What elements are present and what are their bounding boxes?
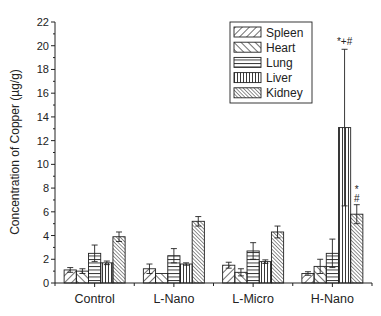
y-tick-label: 8: [43, 182, 49, 194]
y-tick-label: 6: [43, 206, 49, 218]
bar-kidney: [271, 232, 283, 283]
bar-kidney: [113, 237, 125, 283]
bar-kidney: [351, 214, 363, 283]
legend-swatch-liver: [234, 73, 261, 83]
y-tick-label: 10: [37, 158, 49, 170]
y-tick-label: 4: [43, 230, 49, 242]
legend-label-lung: Lung: [266, 56, 293, 70]
bar-kidney: [192, 221, 204, 283]
x-category-label: L-Micro: [232, 292, 274, 306]
significance-marker: *+#: [337, 36, 353, 47]
x-category-label: H-Nano: [311, 292, 354, 306]
y-tick-label: 16: [37, 87, 49, 99]
significance-marker: *: [355, 184, 359, 195]
bar-heart: [156, 274, 168, 283]
bars: [64, 49, 363, 283]
y-tick-label: 2: [43, 253, 49, 265]
bar-liver: [259, 262, 271, 283]
x-category-label: Control: [74, 292, 114, 306]
legend-swatch-kidney: [234, 88, 261, 98]
bar-liver: [101, 263, 113, 283]
y-axis-title: Concentration of Copper (µg/g): [8, 69, 22, 235]
legend-label-spleen: Spleen: [266, 26, 303, 40]
legend-label-kidney: Kidney: [266, 86, 303, 100]
legend-label-liver: Liver: [266, 71, 292, 85]
legend-swatch-lung: [234, 57, 261, 67]
legend-swatch-heart: [234, 42, 261, 52]
bar-chart: 0246810121416182022 ControlL-NanoL-Micro…: [0, 0, 381, 316]
legend-swatch-spleen: [234, 27, 261, 37]
x-axis: ControlL-NanoL-MicroH-Nano: [55, 283, 372, 306]
y-tick-label: 12: [37, 135, 49, 147]
y-tick-label: 22: [37, 16, 49, 28]
x-category-label: L-Nano: [153, 292, 194, 306]
y-tick-label: 0: [43, 277, 49, 289]
y-tick-label: 14: [37, 111, 49, 123]
y-tick-label: 18: [37, 63, 49, 75]
y-tick-label: 20: [37, 40, 49, 52]
bar-liver: [180, 264, 192, 283]
y-axis: 0246810121416182022: [37, 16, 55, 289]
legend-label-heart: Heart: [266, 41, 296, 55]
legend: SpleenHeartLungLiverKidney: [230, 22, 312, 103]
